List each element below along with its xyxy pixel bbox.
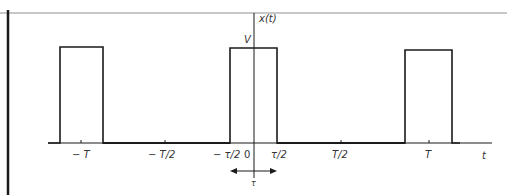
tick-label-tau-half: τ/2 [271, 149, 287, 160]
arrow-left-icon [230, 168, 237, 174]
tick-label-minus-T-half: − T/2 [148, 149, 175, 160]
tau-label: τ [251, 179, 256, 188]
tick-label-T: T [425, 149, 432, 160]
arrow-right-icon [270, 168, 277, 174]
tick-label-origin: 0 [244, 149, 250, 160]
tick-label-minus-tau-half: − τ/2 [213, 149, 240, 160]
amplitude-label: V [244, 34, 252, 45]
tick-label-T-half: T/2 [332, 149, 348, 160]
x-axis-label: t [482, 150, 487, 161]
y-axis-label: x(t) [258, 13, 277, 24]
pulse-train-diagram: x(t) V t − T − T/2 − τ/2 0 τ/2 T/2 T τ [0, 0, 507, 195]
tick-label-minus-T: − T [72, 149, 91, 160]
